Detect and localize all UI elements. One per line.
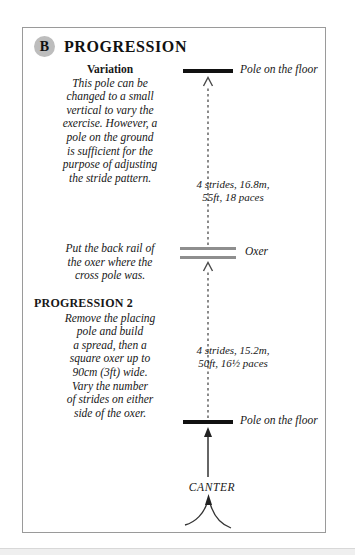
progression-2-line: Remove the placing [34,312,186,326]
stride-caption-line: 55ft, 18 paces [202,191,263,203]
variation-line: purpose of adjusting [34,158,186,172]
progression-2-line: pole and build [34,325,186,339]
progression-2-heading: PROGRESSION 2 [34,297,186,311]
variation-line: exercise. However, a [34,117,186,131]
progression-2-line: square oxer up to [34,352,186,366]
page-title: PROGRESSION [64,38,187,56]
text-block-progression-2: PROGRESSION 2 Remove the placing pole an… [34,297,186,420]
obstacle-pole-top [183,69,233,73]
progression-2-line: Vary the number [34,380,186,394]
progression-2-line: side of the oxer. [34,407,186,421]
obstacle-oxer-back-rail [180,247,236,250]
variation-line: pole on the ground [34,131,186,145]
page-header: B PROGRESSION [34,36,187,57]
obstacle-oxer-front-rail [180,256,236,259]
back-rail-line: Put the back rail of [34,242,186,256]
back-rail-line: the oxer where the [34,256,186,270]
label-pole-top: Pole on the floor [240,63,318,75]
stride-caption-lower: 4 strides, 15.2m, 50ft, 16½ paces [168,344,298,370]
stride-caption-line: 4 strides, 16.8m, [196,178,269,190]
page-bottom-strip [0,548,355,555]
stride-caption-line: 50ft, 16½ paces [198,357,268,369]
variation-line: This pole can be [34,77,186,91]
text-block-back-rail: Put the back rail of the oxer where the … [34,242,186,283]
label-pole-bottom: Pole on the floor [240,414,318,426]
label-oxer: Oxer [245,245,268,257]
stride-caption-line: 4 strides, 15.2m, [196,344,269,356]
progression-2-line: of strides on either [34,393,186,407]
label-canter: CANTER [162,481,262,493]
variation-line: is sufficient for the [34,145,186,159]
variation-heading: Variation [34,63,186,77]
back-rail-line: cross pole was. [34,269,186,283]
stride-caption-upper: 4 strides, 16.8m, 55ft, 18 paces [168,178,298,204]
section-badge: B [34,36,55,57]
variation-line: the stride pattern. [34,172,186,186]
obstacle-pole-bottom [183,420,233,424]
variation-line: changed to a small [34,90,186,104]
variation-line: vertical to vary the [34,104,186,118]
progression-2-line: a spread, then a [34,339,186,353]
text-block-variation: Variation This pole can be changed to a … [34,63,186,185]
progression-2-line: 90cm (3ft) wide. [34,366,186,380]
